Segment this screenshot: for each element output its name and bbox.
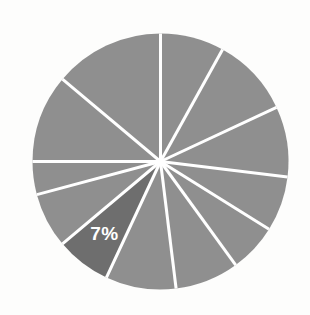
pie-labels-group: 7%	[90, 223, 118, 244]
pie-chart-canvas: 7%	[0, 0, 310, 315]
pie-slice-label: 7%	[90, 223, 118, 244]
pie-chart-figure: 7%	[0, 0, 310, 315]
